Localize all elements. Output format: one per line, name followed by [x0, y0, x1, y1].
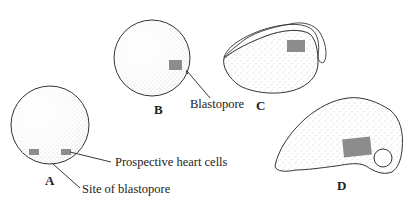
label-blastopore: Blastopore	[190, 98, 244, 111]
label-site-of-blastopore: Site of blastopore	[82, 183, 170, 196]
eye-vesicle-d	[374, 149, 392, 167]
heart-cells-patch-d	[342, 137, 372, 158]
heart-cells-patch-a-right	[61, 149, 71, 155]
embryo-stage-d	[275, 98, 403, 174]
embryo-stage-c	[224, 23, 326, 93]
stage-label-d: D	[337, 179, 346, 192]
leader-prospective-heart-cells	[70, 152, 111, 162]
heart-cells-patch-a-left	[29, 149, 39, 155]
leader-site-of-blastopore	[53, 164, 80, 188]
stage-label-c: C	[256, 99, 265, 112]
stage-label-a: A	[45, 174, 54, 187]
heart-cells-patch-b	[169, 60, 182, 70]
heart-cells-patch-c	[287, 40, 305, 52]
stage-label-b: B	[154, 103, 163, 116]
label-prospective-heart-cells: Prospective heart cells	[115, 156, 227, 169]
embryo-stage-a	[11, 86, 111, 188]
leader-blastopore	[187, 71, 210, 98]
embryo-stage-b	[114, 20, 210, 98]
